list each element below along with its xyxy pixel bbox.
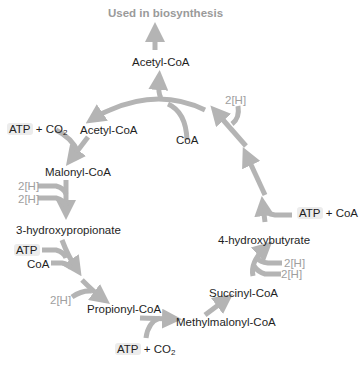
cofactor-2h-propionyl: 2[H] bbox=[50, 294, 71, 307]
arrow-2h-succ-1 bbox=[257, 258, 282, 263]
pathway-arrows bbox=[0, 0, 362, 365]
cofactor-atp-coa-right: ATP + CoA bbox=[297, 207, 358, 220]
coa-label: + CoA bbox=[326, 207, 358, 219]
arrow-methylmalonyl-succinyl bbox=[205, 300, 225, 315]
atp-badge: ATP bbox=[14, 244, 40, 256]
metabolite-coa-top: CoA bbox=[176, 134, 198, 147]
cofactor-atp-hp: ATP bbox=[14, 244, 40, 257]
arrow-2h-propionyl bbox=[72, 291, 92, 297]
arrow-branch-acetyl-up bbox=[159, 80, 161, 98]
atp-badge: ATP bbox=[297, 207, 323, 219]
co2-subscript: 2 bbox=[63, 128, 67, 137]
cofactor-2h-malonyl-2: 2[H] bbox=[18, 193, 39, 206]
cofactor-2h-top-right: 2[H] bbox=[225, 94, 246, 107]
atp-badge: ATP bbox=[7, 123, 33, 135]
arrow-2h-mal-2 bbox=[38, 198, 66, 206]
metabolite-propionyl-coa: Propionyl-CoA bbox=[87, 303, 161, 316]
metabolite-methylmalonyl-coa: Methylmalonyl-CoA bbox=[176, 316, 276, 329]
metabolite-acetyl-coa-top: Acetyl-CoA bbox=[132, 56, 190, 69]
cofactor-atp-co2-bottom: ATP + CO2 bbox=[115, 343, 175, 359]
cofactor-2h-malonyl-1: 2[H] bbox=[18, 180, 39, 193]
arrow-upper-right bbox=[217, 113, 246, 146]
cofactor-coa-hp: CoA bbox=[27, 258, 49, 271]
arrow-top-arc bbox=[94, 99, 205, 118]
co2-label: + CO bbox=[144, 343, 171, 355]
metabolite-succinyl-coa: Succinyl-CoA bbox=[209, 287, 278, 300]
metabolite-malonyl-coa: Malonyl-CoA bbox=[45, 166, 111, 179]
arrow-2h-top-right bbox=[232, 106, 238, 124]
arrow-coa-hp bbox=[51, 263, 71, 268]
arrow-atp-co2-bottom bbox=[146, 318, 160, 338]
arrow-right-mid bbox=[247, 156, 265, 195]
atp-badge: ATP bbox=[115, 343, 141, 355]
cofactor-2h-succinyl-2: 2[H] bbox=[281, 268, 302, 281]
cofactor-atp-co2-left: ATP + CO2 bbox=[7, 123, 67, 139]
arrow-2h-succ-2 bbox=[254, 266, 281, 274]
co2-subscript: 2 bbox=[171, 348, 175, 357]
arrow-2h-mal-1 bbox=[38, 186, 66, 194]
biosynthesis-label: Used in biosynthesis bbox=[108, 7, 223, 20]
metabolite-acetyl-coa-left: Acetyl-CoA bbox=[80, 124, 138, 137]
co2-label: + CO bbox=[36, 123, 63, 135]
metabolite-4-hydroxybutyrate: 4-hydroxybutyrate bbox=[218, 234, 310, 247]
arrow-atp-coa-in bbox=[265, 208, 292, 215]
arrow-atp-hp bbox=[42, 250, 66, 258]
metabolite-3-hydroxypropionate: 3-hydroxypropionate bbox=[16, 224, 121, 237]
